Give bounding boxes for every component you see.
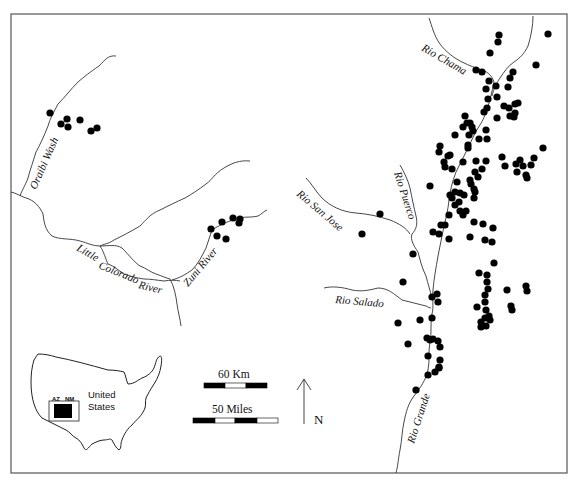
- site-dot: [57, 120, 64, 127]
- site-dot: [493, 93, 500, 100]
- north-label: N: [314, 412, 324, 427]
- site-dot: [459, 123, 466, 130]
- scale-bar-km: 60 Km: [204, 368, 267, 388]
- site-dot: [76, 116, 83, 123]
- site-dot: [436, 142, 443, 149]
- site-dot: [436, 356, 443, 363]
- states-label: States: [88, 401, 115, 412]
- site-dot: [451, 201, 458, 208]
- site-dot: [482, 322, 489, 329]
- label-rio-chama: Rio Chama: [419, 41, 469, 77]
- site-dot: [498, 153, 505, 160]
- site-dot: [64, 123, 71, 130]
- site-dot: [404, 340, 411, 347]
- label-rio-puerco: Rio Puerco: [392, 169, 419, 221]
- site-dot: [483, 135, 490, 142]
- site-dot: [494, 38, 501, 45]
- site-dot: [506, 112, 513, 119]
- site-dot: [459, 158, 466, 165]
- site-dot: [530, 154, 537, 161]
- site-dot: [482, 85, 489, 92]
- site-dot: [409, 250, 416, 257]
- site-dot: [483, 278, 490, 285]
- site-dot: [484, 95, 491, 102]
- site-dot: [482, 306, 489, 313]
- site-dot: [469, 127, 476, 134]
- label-rio-san-jose: Rio San Jose: [294, 187, 346, 233]
- site-dot: [481, 298, 488, 305]
- site-dot: [229, 214, 236, 221]
- site-dot: [466, 233, 473, 240]
- site-dot: [490, 259, 497, 266]
- az-label: AZ: [52, 396, 60, 402]
- scale-bar-miles: 50 Miles: [193, 403, 278, 423]
- us-inset-map: AZ NM United States: [31, 354, 162, 450]
- site-dot: [358, 230, 365, 237]
- site-dot: [461, 112, 468, 119]
- site-dot: [482, 157, 489, 164]
- site-dot: [93, 124, 100, 131]
- site-dot: [482, 126, 489, 133]
- site-markers: [46, 30, 551, 393]
- site-dot: [46, 109, 53, 116]
- site-dot: [485, 77, 492, 84]
- site-dot: [453, 178, 460, 185]
- site-dot: [475, 135, 482, 142]
- site-dot: [479, 220, 486, 227]
- site-dot: [435, 148, 442, 155]
- site-dot: [412, 386, 419, 393]
- site-dot: [236, 215, 243, 222]
- site-dot: [433, 290, 440, 297]
- tributary-river: [100, 161, 250, 246]
- site-dot: [394, 319, 401, 326]
- site-dot: [434, 298, 441, 305]
- site-dot: [436, 343, 443, 350]
- site-dot: [472, 157, 479, 164]
- site-dot: [426, 182, 433, 189]
- united-label: United: [88, 389, 115, 400]
- site-dot: [492, 82, 499, 89]
- nm-label: NM: [65, 396, 74, 402]
- site-dot: [532, 61, 539, 68]
- site-dot: [544, 30, 551, 37]
- site-dot: [445, 235, 452, 242]
- site-dot: [446, 151, 453, 158]
- site-dot: [416, 316, 423, 323]
- site-dot: [399, 278, 406, 285]
- site-dot: [501, 162, 508, 169]
- study-area-highlight: [54, 404, 72, 418]
- site-dot: [480, 108, 487, 115]
- site-dot: [63, 115, 70, 122]
- little-colorado-river: [11, 192, 170, 279]
- label-oraibi-wash: Oraibi Wash: [27, 135, 61, 191]
- site-dot: [222, 235, 229, 242]
- site-dot: [474, 173, 481, 180]
- site-dot: [218, 218, 225, 225]
- site-dot: [475, 269, 482, 276]
- label-little: Little: [74, 241, 101, 264]
- site-dot: [424, 371, 431, 378]
- site-dot: [493, 114, 500, 121]
- site-dot: [448, 165, 455, 172]
- label-zuni-river: Zuni River: [180, 244, 220, 288]
- site-dot: [478, 68, 485, 75]
- site-dot: [478, 165, 485, 172]
- site-dot: [484, 285, 491, 292]
- site-dot: [467, 180, 474, 187]
- site-dot: [509, 68, 516, 75]
- site-dot: [470, 194, 477, 201]
- scale-miles-label: 50 Miles: [212, 403, 253, 415]
- site-dot: [523, 174, 530, 181]
- site-dot: [486, 49, 493, 56]
- site-dot: [489, 224, 496, 231]
- site-dot: [470, 218, 477, 225]
- site-dot: [451, 131, 458, 138]
- north-arrow: N: [297, 379, 324, 427]
- site-dot: [513, 168, 520, 175]
- site-dot: [376, 210, 383, 217]
- little-colorado-south: [170, 279, 181, 326]
- site-dot: [429, 228, 436, 235]
- site-dot: [428, 314, 435, 321]
- site-dot: [441, 163, 448, 170]
- site-dot: [527, 161, 534, 168]
